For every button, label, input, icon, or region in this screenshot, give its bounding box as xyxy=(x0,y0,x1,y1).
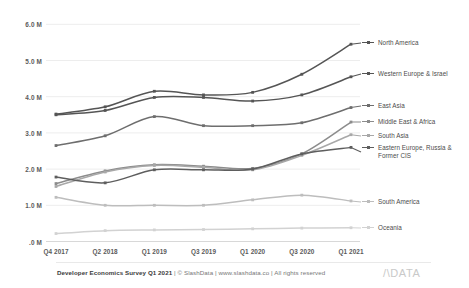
data-point-marker xyxy=(104,171,107,174)
legend-swatch-icon xyxy=(362,103,374,108)
series-line xyxy=(55,106,361,147)
series-line xyxy=(55,226,361,235)
footer-divider xyxy=(56,262,431,263)
y-axis-tick-label: .0 M xyxy=(8,238,42,245)
data-point-marker xyxy=(300,93,303,96)
data-point-marker xyxy=(104,229,107,232)
chart-container: .0 M1.0 M2.0 M3.0 M4.0 M5.0 M6.0 M Q4 20… xyxy=(0,0,469,288)
legend-item[interactable]: Oceania xyxy=(362,224,402,232)
y-axis-tick-label: 1.0 M xyxy=(8,202,42,209)
x-axis-tick-label: Q1 2020 xyxy=(240,248,265,255)
y-axis-tick-label: 4.0 M xyxy=(8,93,42,100)
data-point-marker xyxy=(251,168,254,171)
legend-swatch-icon xyxy=(362,199,374,204)
slashdata-logo: /\DATA xyxy=(383,267,420,279)
data-point-marker xyxy=(202,124,205,127)
data-point-marker xyxy=(300,73,303,76)
legend-connector xyxy=(351,43,361,44)
legend-item[interactable]: South Asia xyxy=(362,132,409,140)
data-point-marker xyxy=(202,168,205,171)
data-point-marker xyxy=(202,166,205,169)
legend-item-label: Western Europe & Israel xyxy=(378,70,448,78)
y-axis-tick-label: 2.0 M xyxy=(8,166,42,173)
legend-connector xyxy=(351,201,361,202)
data-point-marker xyxy=(55,182,58,185)
data-point-marker xyxy=(300,153,303,156)
legend-item[interactable]: Eastern Europe, Russia & Former CIS xyxy=(362,144,469,160)
data-point-marker xyxy=(55,176,58,179)
legend-item-label: Eastern Europe, Russia & Former CIS xyxy=(378,144,469,160)
series-path xyxy=(56,135,351,187)
data-point-marker xyxy=(153,229,156,232)
legend-swatch-icon xyxy=(362,40,374,45)
data-point-marker xyxy=(202,96,205,99)
legend-item[interactable]: South America xyxy=(362,198,420,206)
data-point-marker xyxy=(153,90,156,93)
legend-item[interactable]: North America xyxy=(362,39,419,47)
data-point-marker xyxy=(153,96,156,99)
data-point-marker xyxy=(300,121,303,124)
legend-item-label: South America xyxy=(378,198,420,206)
x-axis-tick-label: Q3 2020 xyxy=(289,248,314,255)
legend-item-label: Oceania xyxy=(378,224,402,232)
data-point-marker xyxy=(104,204,107,207)
legend-swatch-icon xyxy=(362,225,374,230)
legend-item[interactable]: East Asia xyxy=(362,102,405,110)
legend-connector xyxy=(351,147,361,152)
footer-caption: Developer Economics Survey Q1 2021 | © S… xyxy=(57,269,325,276)
chart-footer: Developer Economics Survey Q1 2021 | © S… xyxy=(0,262,469,288)
legend-item-label: East Asia xyxy=(378,102,405,110)
legend-item-label: Middle East & Africa xyxy=(378,118,435,126)
x-axis-tick-label: Q3 2019 xyxy=(191,248,216,255)
data-point-marker xyxy=(202,204,205,207)
legend-swatch-icon xyxy=(362,71,374,76)
legend-item[interactable]: Middle East & Africa xyxy=(362,118,435,126)
data-point-marker xyxy=(55,196,58,199)
data-point-marker xyxy=(251,198,254,201)
data-point-marker xyxy=(153,164,156,167)
legend-item[interactable]: Western Europe & Israel xyxy=(362,70,448,78)
x-axis-tick-label: Q1 2021 xyxy=(338,248,363,255)
legend-swatch-icon xyxy=(362,119,374,124)
data-point-marker xyxy=(104,109,107,112)
legend-swatch-icon xyxy=(362,145,374,150)
legend-swatch-icon xyxy=(362,133,374,138)
legend-item-label: South Asia xyxy=(378,132,409,140)
series-line xyxy=(55,43,361,116)
legend-connector xyxy=(351,135,361,136)
data-point-marker xyxy=(300,194,303,197)
chart-legend: North AmericaWestern Europe & IsraelEast… xyxy=(362,0,469,262)
data-point-marker xyxy=(104,105,107,108)
x-axis-tick-label: Q1 2019 xyxy=(142,248,167,255)
data-point-marker xyxy=(251,124,254,127)
data-point-marker xyxy=(104,134,107,137)
series-line xyxy=(55,121,361,185)
x-axis-tick-label: Q4 2017 xyxy=(43,248,68,255)
data-point-marker xyxy=(153,168,156,171)
y-axis-tick-label: 3.0 M xyxy=(8,129,42,136)
footer-credits: | © SlashData | www.slashdata.co | All r… xyxy=(174,269,325,276)
legend-connector xyxy=(351,74,361,77)
data-point-marker xyxy=(55,232,58,235)
data-point-marker xyxy=(55,113,58,116)
footer-survey-title: Developer Economics Survey Q1 2021 xyxy=(57,269,172,276)
y-axis-tick-label: 5.0 M xyxy=(8,57,42,64)
series-line xyxy=(55,146,361,184)
data-point-marker xyxy=(104,181,107,184)
series-path xyxy=(56,44,351,114)
series-line xyxy=(55,194,361,207)
x-axis-tick-label: Q2 2018 xyxy=(93,248,118,255)
data-point-marker xyxy=(202,93,205,96)
data-point-marker xyxy=(251,91,254,94)
data-point-marker xyxy=(153,115,156,118)
data-point-marker xyxy=(55,185,58,188)
data-point-marker xyxy=(202,228,205,231)
data-point-marker xyxy=(251,100,254,103)
legend-item-label: North America xyxy=(378,39,419,47)
data-point-marker xyxy=(55,144,58,147)
data-point-marker xyxy=(300,227,303,230)
y-axis-tick-label: 6.0 M xyxy=(8,21,42,28)
series-line xyxy=(55,133,361,188)
data-point-marker xyxy=(153,204,156,207)
legend-connector xyxy=(351,106,361,108)
